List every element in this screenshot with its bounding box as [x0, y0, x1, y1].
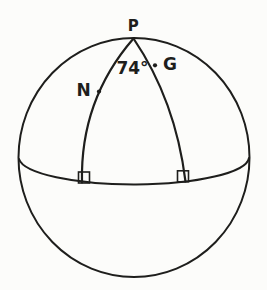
- right-angle-mark-right: [178, 171, 189, 182]
- point-n-label: N: [76, 80, 90, 100]
- point-g-dot: [153, 63, 157, 67]
- point-n-dot: [97, 89, 101, 93]
- pole-label: P: [128, 17, 139, 35]
- point-g-label: G: [163, 54, 177, 74]
- sphere-figure: P 74° G N: [0, 0, 267, 290]
- angle-label: 74°: [116, 58, 148, 78]
- sphere-diagram: P 74° G N: [0, 0, 267, 290]
- equator-arc: [19, 158, 249, 184]
